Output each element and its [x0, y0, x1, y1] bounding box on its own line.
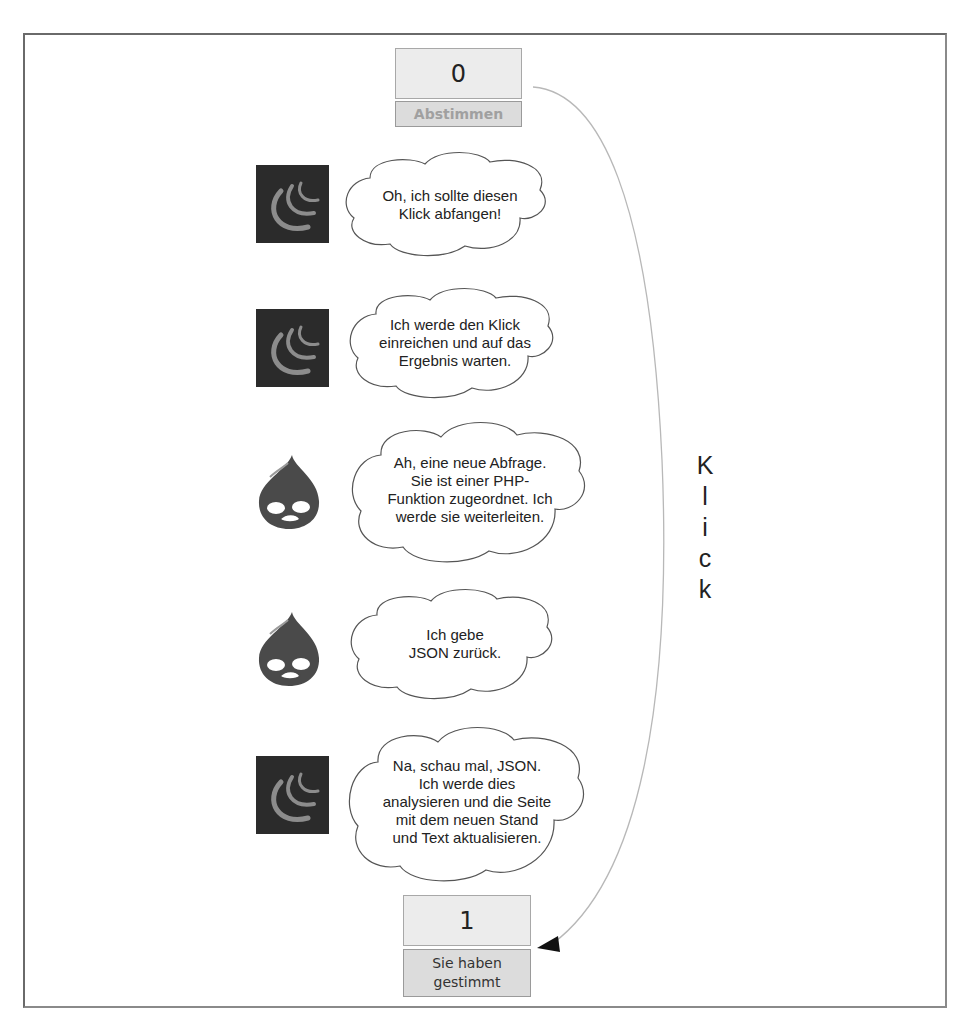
speech-text-5: Na, schau mal, JSON. Ich werde dies anal…: [342, 718, 592, 886]
vote-count-before: 0: [395, 48, 522, 99]
speech-text-4: Ich gebe JSON zurück.: [345, 585, 565, 703]
drupal-logo-icon: [256, 610, 322, 688]
jquery-logo-icon: [256, 165, 329, 243]
speech-text-2: Ich werde den Klick einreichen und auf d…: [344, 284, 566, 402]
voted-status-button[interactable]: Sie haben gestimmt: [403, 949, 531, 997]
drupal-logo-icon: [256, 453, 322, 531]
click-label-letter: K: [690, 450, 720, 481]
speech-cloud-5: Na, schau mal, JSON. Ich werde dies anal…: [342, 718, 592, 886]
speech-text-3: Ah, eine neue Abfrage. Sie ist einer PHP…: [345, 415, 595, 565]
jquery-logo-icon: [256, 756, 329, 834]
vote-button-disabled[interactable]: Abstimmen: [395, 101, 522, 127]
click-label-letter: l: [690, 481, 720, 512]
vote-count-after: 1: [403, 895, 531, 946]
jquery-logo-icon: [256, 309, 329, 387]
speech-cloud-3: Ah, eine neue Abfrage. Sie ist einer PHP…: [345, 415, 595, 565]
speech-cloud-2: Ich werde den Klick einreichen und auf d…: [344, 284, 566, 402]
click-flow-label: K l i c k: [690, 450, 720, 605]
arrowhead-icon: [537, 936, 560, 952]
speech-text-1: Oh, ich sollte diesen Klick abfangen!: [340, 150, 560, 260]
click-label-letter: c: [690, 543, 720, 574]
speech-cloud-1: Oh, ich sollte diesen Klick abfangen!: [340, 150, 560, 260]
speech-cloud-4: Ich gebe JSON zurück.: [345, 585, 565, 703]
click-label-letter: k: [690, 574, 720, 605]
click-label-letter: i: [690, 512, 720, 543]
